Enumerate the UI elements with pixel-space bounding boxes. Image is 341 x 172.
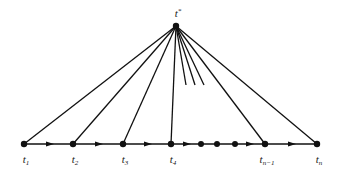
- apex-node: [173, 23, 179, 29]
- edge-to-tn-1: [176, 26, 265, 144]
- node-t4: [168, 141, 174, 147]
- partial-edge-2: [176, 26, 195, 85]
- node-label-tn-minus-1: tn−1: [260, 154, 275, 167]
- arrowhead-6: [288, 142, 296, 147]
- arrowhead-4: [183, 142, 191, 147]
- arrowhead-3: [144, 142, 152, 147]
- node-tn-1: [262, 141, 268, 147]
- edge-to-t1: [24, 26, 176, 144]
- edge-to-tn: [176, 26, 317, 144]
- edge-to-t2: [73, 26, 176, 144]
- node-t3: [120, 141, 126, 147]
- node-tn: [314, 141, 320, 147]
- partial-edge-1: [176, 26, 186, 85]
- node-label-t2: t2: [72, 154, 79, 167]
- ellipsis-dot-3: [232, 141, 238, 147]
- node-label-t4: t4: [170, 154, 177, 167]
- partial-edges: [176, 26, 204, 85]
- apex-label: t*: [175, 8, 182, 19]
- graph-diagram: [0, 0, 341, 172]
- edge-to-t4: [171, 26, 176, 144]
- node-label-t3: t3: [122, 154, 129, 167]
- node-t2: [70, 141, 76, 147]
- node-t1: [21, 141, 27, 147]
- intermediate-dots: [198, 141, 238, 147]
- node-label-t1: t1: [23, 154, 30, 167]
- arrowhead-2: [95, 142, 103, 147]
- ellipsis-dot-2: [214, 141, 220, 147]
- arrowhead-1: [46, 142, 54, 147]
- node-label-tn: tn: [316, 154, 323, 167]
- arrowhead-5: [246, 142, 254, 147]
- ellipsis-dot-1: [198, 141, 204, 147]
- apex-edges: [24, 26, 317, 144]
- edge-to-t3: [123, 26, 176, 144]
- partial-edge-3: [176, 26, 204, 85]
